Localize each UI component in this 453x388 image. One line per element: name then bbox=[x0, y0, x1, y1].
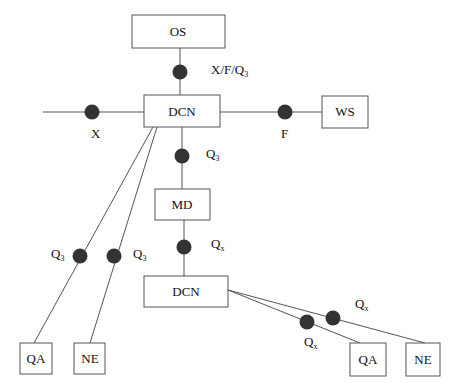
label-md-dcn: Qx bbox=[211, 236, 224, 253]
label-os-dcn: X/F/Q3 bbox=[211, 62, 248, 79]
edge-dcn-qa-left bbox=[34, 127, 153, 343]
label-ne-right: Qx bbox=[355, 296, 368, 313]
node-ne-right-label: NE bbox=[414, 352, 431, 367]
label-qa-left: Q3 bbox=[51, 246, 64, 263]
node-ne-left-label: NE bbox=[81, 351, 98, 366]
label-f: F bbox=[281, 126, 288, 141]
interface-dot-md-dcn bbox=[177, 240, 192, 255]
node-dcn-bottom-label: DCN bbox=[172, 284, 200, 299]
node-dcn-top-label: DCN bbox=[168, 104, 196, 119]
node-qa-left: QA bbox=[20, 343, 52, 374]
edge-dcn-ne-left bbox=[90, 127, 157, 343]
node-dcn-bottom: DCN bbox=[144, 276, 228, 307]
interface-dot-f bbox=[278, 105, 293, 120]
node-ne-left: NE bbox=[74, 343, 105, 374]
node-qa-right: QA bbox=[350, 343, 386, 376]
tmn-architecture-diagram: OS DCN WS MD DCN QA NE QA NE X/F/Q3 X bbox=[0, 0, 453, 388]
interface-dot-ne-right bbox=[326, 311, 341, 326]
node-md-label: MD bbox=[172, 197, 193, 212]
interface-dot-ne-left bbox=[107, 249, 122, 264]
label-dcn-md: Q3 bbox=[206, 146, 219, 163]
interface-dot-os-dcn bbox=[173, 65, 188, 80]
interface-dot-dcn-md bbox=[175, 149, 190, 164]
node-ws-label: WS bbox=[335, 104, 355, 119]
node-os: OS bbox=[132, 15, 225, 48]
node-os-label: OS bbox=[170, 24, 187, 39]
label-qa-right: Qx bbox=[304, 334, 317, 351]
interface-dot-x bbox=[85, 105, 100, 120]
label-ne-left: Q3 bbox=[133, 246, 146, 263]
interface-dot-qa-right bbox=[300, 315, 315, 330]
node-ne-right: NE bbox=[406, 343, 440, 376]
node-qa-right-label: QA bbox=[359, 352, 378, 367]
label-x: X bbox=[91, 126, 101, 141]
node-dcn-top: DCN bbox=[144, 95, 220, 127]
node-qa-left-label: QA bbox=[27, 351, 46, 366]
node-md: MD bbox=[155, 189, 210, 220]
interface-dot-qa-left bbox=[73, 249, 88, 264]
node-ws: WS bbox=[322, 96, 368, 128]
